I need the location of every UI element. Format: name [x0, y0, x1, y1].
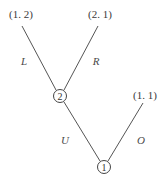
- edge-label-O: O: [137, 134, 145, 146]
- payoff-2-1: (2. 1): [88, 8, 112, 21]
- decision-node-1: 1: [98, 161, 111, 174]
- edge-L: [22, 26, 56, 90]
- node-1-label: 1: [102, 162, 107, 173]
- payoff-1-2: (1. 2): [9, 8, 33, 21]
- node-2-label: 2: [58, 91, 63, 102]
- edge-label-U: U: [61, 134, 70, 146]
- decision-node-2: 2: [54, 90, 67, 103]
- edge-U: [64, 102, 100, 161]
- edge-O: [108, 103, 143, 161]
- payoff-1-1: (1. 1): [133, 89, 157, 102]
- edge-label-L: L: [20, 55, 27, 67]
- game-tree-diagram: L R U O (1. 2) (2. 1) (1. 1) 1 2: [0, 0, 168, 184]
- edge-label-R: R: [92, 55, 100, 67]
